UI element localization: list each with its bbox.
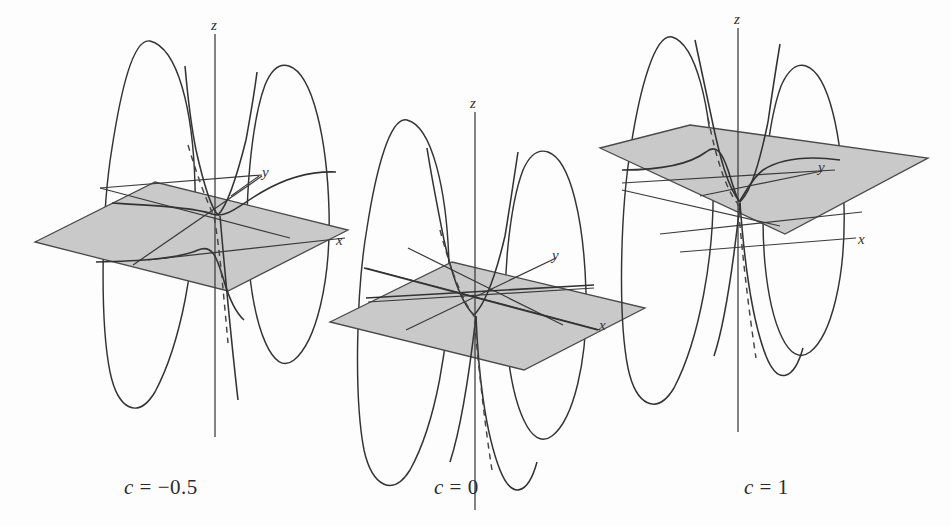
caption-left-value: = −0.5 bbox=[134, 475, 198, 499]
panel-left-graphic: z y x bbox=[35, 17, 348, 437]
z-axis-label: z bbox=[210, 17, 217, 33]
y-axis-label: y bbox=[816, 159, 825, 175]
parabola-upward-tail-left bbox=[695, 40, 712, 120]
x-axis-label: x bbox=[335, 232, 343, 248]
x-label-leader bbox=[680, 238, 856, 252]
caption-right-value: = 1 bbox=[754, 475, 789, 499]
y-axis-label: y bbox=[550, 247, 559, 263]
y-axis-label: y bbox=[260, 164, 269, 180]
panel-middle-cutting-plane bbox=[330, 262, 645, 370]
caption-right-variable: c bbox=[744, 475, 754, 499]
panel-left-cutting-plane bbox=[35, 182, 348, 291]
x-axis-label: x bbox=[598, 317, 606, 333]
z-axis-label: z bbox=[469, 95, 476, 111]
x-axis-label: x bbox=[857, 231, 865, 247]
caption-panel-middle: c = 0 bbox=[434, 475, 479, 500]
surface-rim-left bbox=[622, 37, 714, 404]
caption-middle-variable: c bbox=[434, 475, 444, 499]
z-axis-label: z bbox=[733, 11, 740, 27]
figure-root: z y x bbox=[0, 0, 951, 526]
caption-middle-value: = 0 bbox=[444, 475, 479, 499]
panel-middle-graphic: z y x bbox=[330, 95, 645, 510]
caption-left-variable: c bbox=[124, 475, 134, 499]
saddle-level-curves-figure: z y x bbox=[0, 0, 951, 526]
parabola-upward-tail-right bbox=[246, 72, 257, 140]
panel-right-graphic: z y x bbox=[600, 11, 928, 432]
plane-quad bbox=[35, 182, 348, 291]
caption-panel-left: c = −0.5 bbox=[124, 475, 198, 500]
plane-quad bbox=[330, 262, 645, 370]
caption-panel-right: c = 1 bbox=[744, 475, 789, 500]
y-axis-line bbox=[100, 175, 262, 188]
